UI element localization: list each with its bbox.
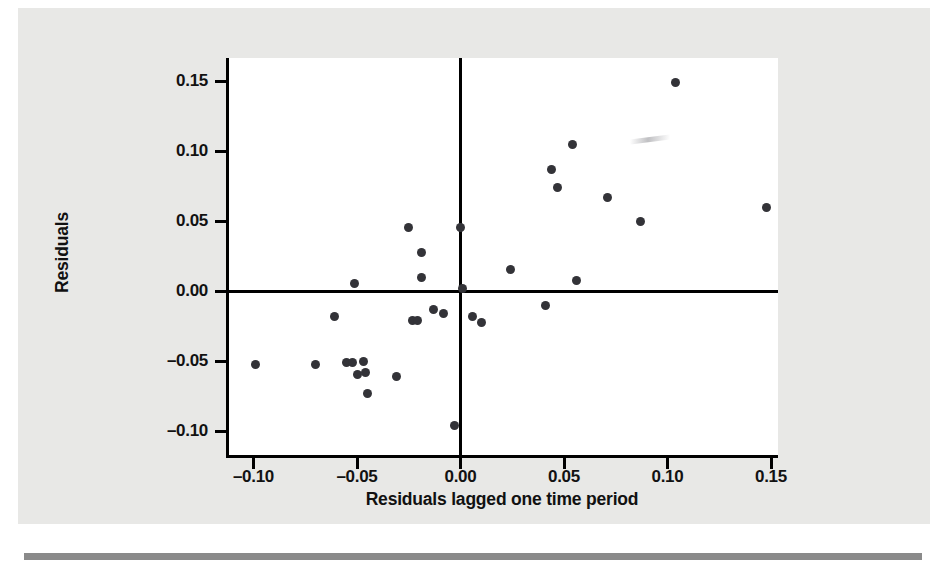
scatter-point	[541, 301, 550, 310]
y-tick-mark	[215, 220, 226, 223]
scatter-point	[417, 248, 426, 257]
scatter-point	[506, 265, 515, 274]
scatter-point	[413, 316, 422, 325]
y-tick-mark	[215, 80, 226, 83]
scatter-point	[456, 223, 465, 232]
scatter-point	[330, 312, 339, 321]
y-tick-mark	[215, 290, 226, 293]
scatter-point	[404, 223, 413, 232]
y-tick-mark	[215, 150, 226, 153]
scatter-point	[251, 360, 260, 369]
y-tick-mark	[215, 430, 226, 433]
figure-page: –0.10–0.050.000.050.100.15 –0.10–0.050.0…	[0, 0, 948, 587]
y-tick-label: 0.00	[110, 281, 208, 301]
y-tick-label: 0.15	[110, 71, 208, 91]
x-axis-title: Residuals lagged one time period	[226, 489, 778, 510]
scatter-point	[361, 368, 370, 377]
y-tick-mark	[215, 360, 226, 363]
x-tick-label: 0.00	[411, 467, 511, 487]
y-tick-label: 0.05	[110, 211, 208, 231]
scatter-point	[417, 273, 426, 282]
y-tick-label: 0.10	[110, 141, 208, 161]
horizontal-zero-reference-line	[226, 290, 778, 293]
vertical-zero-reference-line	[459, 58, 462, 458]
x-tick-label: –0.05	[307, 467, 407, 487]
y-axis-title: Residuals	[52, 153, 73, 353]
scatter-point	[363, 389, 372, 398]
x-tick-label: 0.05	[514, 467, 614, 487]
y-tick-label: –0.05	[110, 351, 208, 371]
page-bottom-rule	[24, 553, 922, 560]
scatter-point	[477, 318, 486, 327]
scatter-point	[636, 217, 645, 226]
plot-area	[226, 58, 778, 458]
scatter-point	[359, 357, 368, 366]
x-tick-label: –0.10	[204, 467, 304, 487]
x-tick-label: 0.15	[721, 467, 821, 487]
x-tick-label: 0.10	[618, 467, 718, 487]
scatter-point	[568, 140, 577, 149]
scatter-point	[350, 279, 359, 288]
y-tick-label: –0.10	[110, 421, 208, 441]
scatter-point	[311, 360, 320, 369]
scatter-point	[572, 276, 581, 285]
